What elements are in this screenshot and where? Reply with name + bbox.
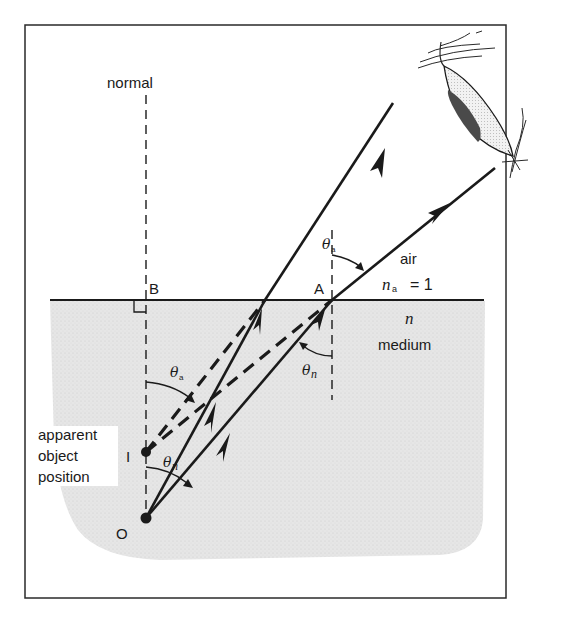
label-point-i: I [126,448,130,465]
ray-1-air [265,103,393,300]
label-n-a-equals-1: n a = 1 [382,275,433,294]
svg-text:apparent: apparent [38,426,98,443]
svg-text:object: object [38,447,79,464]
label-n-medium: n [405,309,414,328]
label-air: air [400,250,417,267]
svg-text:a: a [392,284,397,294]
svg-text:θ: θ [163,454,172,470]
svg-text:θ: θ [170,364,179,380]
svg-text:position: position [38,468,90,485]
label-apparent-object-position: apparent object position [36,426,118,486]
label-normal: normal [107,74,153,91]
label-medium: medium [378,336,431,353]
refraction-diagram: normal B A air n a = 1 n medium θ a θ n … [0,0,565,623]
eye-icon [418,31,528,178]
svg-text:a: a [179,373,184,382]
label-point-o: O [116,525,128,542]
svg-text:n: n [311,367,317,381]
label-point-b: B [149,280,159,297]
label-point-a: A [314,280,324,297]
svg-text:θ: θ [322,236,331,252]
svg-text:n: n [382,275,391,294]
point-i-marker [141,447,151,457]
svg-text:a: a [331,245,336,254]
svg-text:= 1: = 1 [410,276,433,293]
point-o-marker [141,513,152,524]
svg-text:n: n [172,459,178,473]
label-theta-a-top: θ a [322,236,336,254]
svg-text:θ: θ [302,362,311,378]
